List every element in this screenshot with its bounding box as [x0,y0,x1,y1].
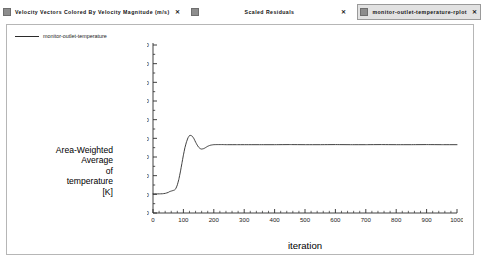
y-axis-title-line: [K] [9,187,113,197]
document-icon [191,8,199,16]
y-axis-title-line: temperature [9,176,113,186]
x-tick-label: 600 [330,216,341,223]
y-tick-label: 300.0000 [147,172,150,179]
close-icon[interactable]: ✕ [175,8,180,16]
tab-label: Scaled Residuals [203,8,337,16]
tab-scaled-residuals[interactable]: Scaled Residuals ✕ [188,4,351,20]
tab-bar: Velocity Vectors Colored By Velocity Mag… [0,0,480,24]
x-axis-title: iteration [147,240,463,251]
close-icon[interactable]: ✕ [341,8,346,16]
x-tick-label: 400 [270,216,281,223]
y-tick-label: 296.0000 [147,209,150,216]
y-tick-label: 306.0000 [147,116,150,123]
x-tick-label: 500 [300,216,311,223]
x-tick-label: 1000 [450,216,463,223]
y-tick-label: 298.0000 [147,191,150,198]
chart-svg: 296.0000298.0000300.0000302.0000304.0000… [147,43,463,231]
x-axis-ticks: 01002003004005006007008009001000 [151,209,463,223]
y-tick-label: 308.0000 [147,97,150,104]
y-tick-label: 302.0000 [147,153,150,160]
y-tick-label: 304.0000 [147,135,150,142]
x-tick-label: 100 [178,216,189,223]
y-tick-label: 314.0000 [147,43,150,48]
y-axis-title-line: Average [9,155,113,165]
x-tick-label: 700 [361,216,372,223]
x-tick-label: 800 [391,216,402,223]
y-axis-title: Area-Weighted Average of temperature [K] [9,145,113,197]
x-tick-label: 300 [239,216,250,223]
plot-panel: monitor-outlet-temperature Area-Weighted… [6,24,474,255]
document-icon [360,8,368,16]
document-icon [3,8,11,16]
series-line-monitor-outlet-temperature [153,135,457,194]
tab-velocity-vectors[interactable]: Velocity Vectors Colored By Velocity Mag… [0,4,184,20]
y-tick-label: 310.0000 [147,79,150,86]
y-axis-title-line: Area-Weighted [9,145,113,155]
tab-label: Velocity Vectors Colored By Velocity Mag… [15,8,170,16]
legend-label: monitor-outlet-temperature [43,33,107,40]
y-tick-label: 312.0000 [147,60,150,67]
chart-legend: monitor-outlet-temperature [15,33,107,40]
x-tick-label: 0 [151,216,155,223]
tab-monitor-outlet-temperature-rplot[interactable]: monitor-outlet-temperature-rplot ✕ [357,4,481,20]
x-tick-label: 200 [209,216,220,223]
line-chart: 296.0000298.0000300.0000302.0000304.0000… [147,43,463,231]
close-icon[interactable]: ✕ [472,8,477,16]
x-tick-label: 900 [422,216,433,223]
y-axis-ticks: 296.0000298.0000300.0000302.0000304.0000… [147,43,157,216]
legend-line-swatch [15,36,39,37]
tab-label: monitor-outlet-temperature-rplot [372,8,467,16]
y-axis-title-line: of [9,166,113,176]
